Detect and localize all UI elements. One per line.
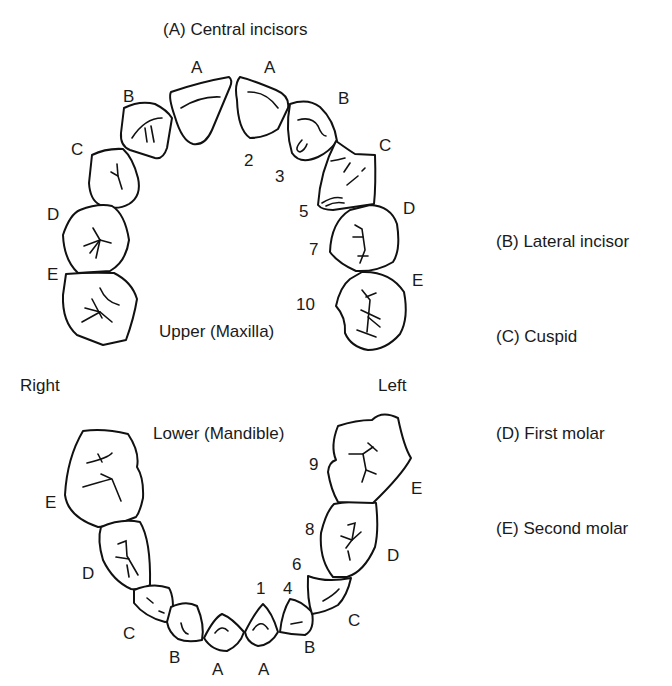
lower-left-second-molar — [328, 414, 411, 503]
lower-eruption-number-1: 1 — [256, 580, 265, 597]
lower-right-first-molar — [99, 521, 150, 589]
legend-cuspid: (C) Cuspid — [496, 328, 577, 345]
upper-left-central-incisor — [236, 77, 288, 138]
upper-right-letter-c: C — [71, 141, 83, 158]
lower-right-letter-c: C — [123, 625, 135, 642]
upper-right-central-incisor — [170, 77, 231, 144]
lower-left-cuspid — [308, 576, 351, 614]
legend-second-molar: (E) Second molar — [496, 520, 628, 537]
upper-eruption-number-2: 2 — [244, 152, 253, 169]
lower-right-second-molar — [65, 430, 143, 527]
lower-right-letter-e: E — [45, 494, 56, 511]
upper-left-letter-d: D — [403, 200, 415, 217]
lower-right-letter-b: B — [169, 649, 180, 666]
lower-eruption-number-4: 4 — [283, 580, 292, 597]
upper-right-second-molar — [63, 273, 137, 345]
lower-left-letter-b: B — [304, 639, 315, 656]
left-side-label: Left — [378, 377, 406, 394]
lower-left-letter-a: A — [258, 661, 269, 678]
upper-left-lateral-incisor — [288, 102, 337, 161]
diagram-title: (A) Central incisors — [163, 21, 308, 38]
lower-eruption-number-9: 9 — [309, 456, 318, 473]
lower-arch-label: Lower (Mandible) — [153, 425, 284, 442]
upper-eruption-number-7: 7 — [309, 241, 318, 258]
upper-eruption-number-10: 10 — [296, 296, 315, 313]
lower-eruption-number-6: 6 — [292, 556, 301, 573]
upper-left-letter-e: E — [412, 272, 423, 289]
upper-right-first-molar — [63, 205, 129, 273]
lower-left-letter-d: D — [387, 547, 399, 564]
upper-eruption-number-3: 3 — [275, 168, 284, 185]
lower-right-letter-d: D — [82, 565, 94, 582]
upper-right-teeth — [63, 77, 231, 345]
legend-first-molar: (D) First molar — [496, 425, 605, 442]
upper-left-teeth — [236, 77, 406, 350]
upper-right-letter-e: E — [47, 266, 58, 283]
lower-right-central-incisor — [204, 614, 244, 651]
upper-left-letter-c: C — [379, 137, 391, 154]
upper-right-letter-d: D — [47, 206, 59, 223]
lower-right-lateral-incisor — [167, 603, 203, 641]
upper-right-cuspid — [89, 149, 139, 208]
upper-arch-label: Upper (Maxilla) — [159, 323, 274, 340]
upper-left-second-molar — [336, 272, 406, 350]
lower-left-teeth — [245, 414, 411, 646]
lower-right-cuspid — [134, 585, 173, 622]
upper-right-lateral-incisor — [121, 103, 172, 159]
lower-left-letter-e: E — [411, 480, 422, 497]
lower-left-letter-c: C — [348, 612, 360, 629]
legend-lateral-incisor: (B) Lateral incisor — [496, 233, 629, 250]
lower-right-teeth — [65, 430, 244, 651]
upper-left-letter-a: A — [264, 59, 275, 76]
lower-eruption-number-8: 8 — [305, 521, 314, 538]
upper-left-letter-b: B — [338, 90, 349, 107]
upper-eruption-number-5: 5 — [299, 203, 308, 220]
upper-right-letter-a: A — [191, 59, 202, 76]
upper-right-letter-b: B — [123, 88, 134, 105]
upper-left-first-molar — [330, 205, 398, 271]
lower-right-letter-a: A — [212, 661, 223, 678]
lower-left-lateral-incisor — [280, 599, 313, 635]
lower-left-central-incisor — [245, 604, 278, 646]
right-side-label: Right — [20, 377, 60, 394]
